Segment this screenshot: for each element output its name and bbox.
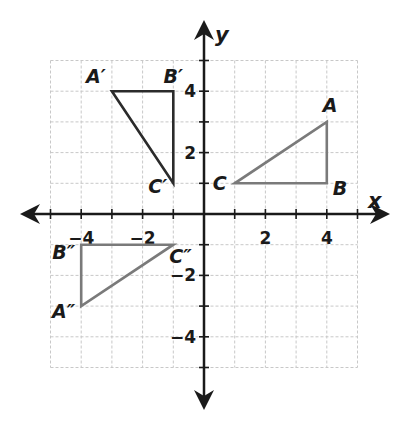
x-tick-label: 4: [321, 228, 333, 248]
vertex-label: A′: [84, 65, 106, 87]
y-axis-label: y: [215, 23, 230, 47]
vertex-label: C′: [148, 175, 167, 197]
x-axis-label: x: [367, 189, 383, 213]
vertex-label: B″: [52, 241, 75, 263]
vertex-label: A″: [50, 300, 76, 322]
vertex-label: B′: [164, 65, 184, 87]
vertex-labels: ABCA′B′C′A″B″C″: [50, 65, 347, 322]
coordinate-plane-figure: −4−22442−2−4 ABCA′B′C′A″B″C″ x y: [0, 0, 415, 429]
coordinate-plane-svg: −4−22442−2−4 ABCA′B′C′A″B″C″ x y: [0, 0, 415, 429]
y-tick-label: −2: [170, 265, 196, 285]
vertex-label: B: [333, 177, 347, 199]
y-tick-label: 2: [184, 143, 196, 163]
vertex-label: C: [213, 172, 227, 194]
x-tick-label: 2: [259, 228, 271, 248]
vertex-label: A: [321, 94, 338, 116]
triangle-abc-2: [81, 245, 173, 306]
triangle-abc-1: [112, 91, 173, 183]
vertex-label: C″: [169, 245, 192, 267]
y-tick-label: 4: [184, 81, 196, 101]
y-tick-label: −4: [170, 327, 196, 347]
